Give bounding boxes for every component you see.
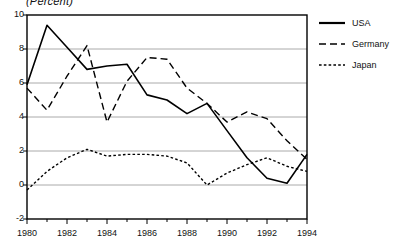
x-tick-label: 1984 [87,229,127,238]
x-tick-label: 1990 [207,229,247,238]
series-line-japan [27,149,307,190]
legend-label: Japan [346,60,377,70]
line-chart: (Percent) 1086420-2 19801982198419861988… [0,0,404,244]
dotted-line-icon [318,60,346,70]
solid-line-icon [318,18,346,28]
chart-legend: USAGermanyJapan [318,12,404,75]
legend-item-japan[interactable]: Japan [318,54,404,75]
legend-item-germany[interactable]: Germany [318,33,404,54]
x-tick-label: 1986 [127,229,167,238]
legend-label: USA [346,18,371,28]
x-tick-label: 1992 [247,229,287,238]
legend-item-usa[interactable]: USA [318,12,404,33]
x-tick-label: 1982 [47,229,87,238]
dashed-line-icon [318,39,346,49]
x-tick-label: 1988 [167,229,207,238]
legend-label: Germany [346,39,389,49]
x-tick-label: 1980 [7,229,47,238]
x-tick-label: 1994 [287,229,327,238]
series-line-germany [27,46,307,160]
